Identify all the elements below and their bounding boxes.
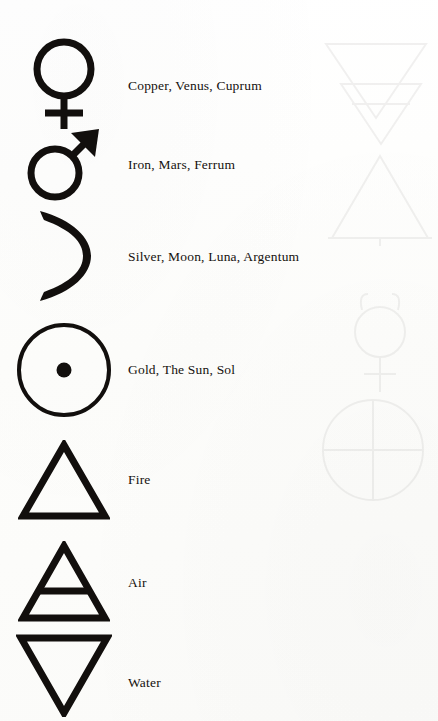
symbol-label-iron: Iron, Mars, Ferrum xyxy=(128,157,438,173)
crescent-moon-symbol xyxy=(0,208,128,304)
symbol-row-air: Air xyxy=(0,536,438,628)
fire-triangle-symbol xyxy=(0,440,128,520)
symbol-label-air: Air xyxy=(128,575,438,591)
water-triangle-symbol xyxy=(0,633,128,717)
symbol-label-water: Water xyxy=(128,675,438,691)
symbol-row-water: Water xyxy=(0,632,438,718)
scanned-page: Copper, Venus, Cuprum Iron, Mars, Ferrum… xyxy=(0,0,438,721)
venus-symbol xyxy=(0,37,128,131)
symbol-row-iron: Iron, Mars, Ferrum xyxy=(0,126,438,202)
symbol-row-copper: Copper, Venus, Cuprum xyxy=(0,36,438,132)
symbol-row-silver: Silver, Moon, Luna, Argentum xyxy=(0,206,438,306)
symbol-row-gold: Gold, The Sun, Sol xyxy=(0,318,438,422)
mars-symbol xyxy=(0,126,128,202)
symbol-label-silver: Silver, Moon, Luna, Argentum xyxy=(128,249,438,265)
air-triangle-symbol xyxy=(0,541,128,623)
symbol-label-fire: Fire xyxy=(128,472,438,488)
symbol-label-copper: Copper, Venus, Cuprum xyxy=(128,78,438,94)
symbol-label-gold: Gold, The Sun, Sol xyxy=(128,362,438,378)
sun-symbol xyxy=(0,322,128,418)
symbol-row-fire: Fire xyxy=(0,436,438,524)
